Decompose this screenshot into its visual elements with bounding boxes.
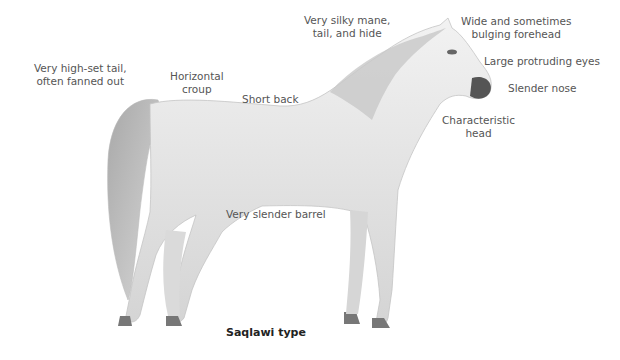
horse-body (126, 18, 491, 325)
hoof (118, 316, 132, 326)
label-croup: Horizontal croup (170, 70, 224, 96)
label-eyes: Large protruding eyes (484, 55, 600, 68)
label-mane: Very silky mane, tail, and hide (304, 14, 390, 40)
label-nose: Slender nose (508, 82, 577, 95)
label-barrel: Very slender barrel (226, 208, 326, 221)
label-tail: Very high-set tail, often fanned out (34, 62, 127, 88)
label-head: Characteristic head (442, 114, 515, 140)
label-back: Short back (242, 93, 298, 106)
horse-far-leg (346, 210, 368, 314)
label-forehead: Wide and sometimes bulging forehead (461, 15, 571, 41)
diagram-canvas: Very high-set tail, often fanned out Hor… (0, 0, 620, 360)
diagram-caption: Saqlawi type (226, 326, 306, 339)
horse-illustration (0, 0, 620, 360)
horse-eye (447, 50, 457, 55)
